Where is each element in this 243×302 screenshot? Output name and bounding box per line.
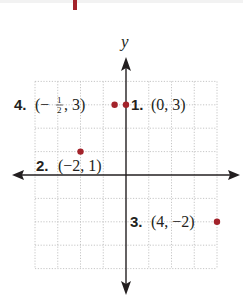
point-label-3: 3. (4, −2) [130,213,195,231]
data-point-2 [77,148,83,154]
point-1-number: 1. [131,96,144,113]
data-point-3 [214,219,220,225]
point-label-2: 2. (−2, 1) [36,157,102,175]
coordinate-plane: y 4. (− 1 2 , 3) 1. (0, 3) 2. (−2, 1) 3.… [0,0,243,302]
point-2-number: 2. [36,157,49,174]
point-3-number: 3. [130,213,143,230]
data-point-1 [123,102,129,108]
point-3-coord: (4, −2) [151,213,195,231]
point-1-coord: (0, 3) [151,96,186,114]
point-4-close: , 3) [64,96,85,114]
point-4-frac-denominator: 2 [57,105,62,115]
point-4-frac-numerator: 1 [57,95,62,105]
data-point-4 [111,102,117,108]
point-label-1: 1. (0, 3) [131,96,186,114]
point-4-number: 4. [14,96,27,113]
point-2-coord: (−2, 1) [58,157,102,175]
point-4-open: (− [35,96,49,114]
y-axis-label: y [119,32,129,51]
